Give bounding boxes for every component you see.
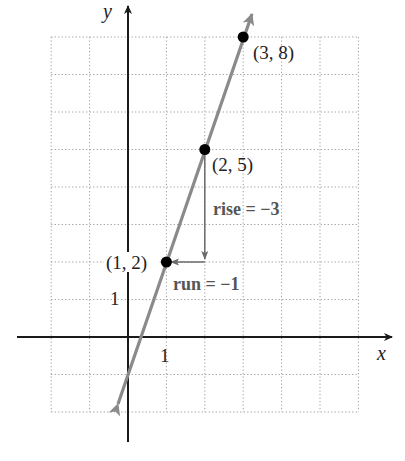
run-label: run = −1 — [173, 274, 240, 294]
y-axis-label: y — [101, 0, 112, 23]
slope-chart: y x 1 1 (1, 2) (2, 5) (3, 8) rise = −3 r… — [0, 0, 405, 461]
x-tick-label: 1 — [160, 345, 170, 366]
point-label-1-2: (1, 2) — [106, 252, 147, 274]
point-2-5 — [199, 144, 210, 155]
rise-label: rise = −3 — [213, 199, 280, 219]
x-axis-label: x — [376, 342, 386, 364]
point-label-3-8: (3, 8) — [253, 42, 294, 64]
point-label-2-5: (2, 5) — [212, 154, 253, 176]
point-3-8 — [238, 32, 249, 43]
y-tick-label: 1 — [110, 288, 120, 309]
point-1-2 — [161, 257, 172, 268]
